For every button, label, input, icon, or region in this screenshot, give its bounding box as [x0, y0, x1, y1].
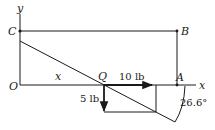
label-b: B — [180, 25, 189, 38]
label-o: O — [9, 80, 18, 93]
label-q: Q — [98, 70, 107, 83]
force-diagram: y x C B O Q A x 10 lb 5 lb 26.6° — [0, 0, 215, 130]
y-axis-label: y — [16, 2, 24, 15]
label-c: C — [8, 25, 17, 38]
label-a: A — [175, 71, 184, 84]
force-label-10lb: 10 lb — [119, 71, 145, 82]
force-label-5lb: 5 lb — [80, 93, 99, 104]
angle-label: 26.6° — [180, 97, 207, 108]
x-axis-label: x — [199, 79, 206, 92]
diagonal-line — [20, 41, 175, 122]
segment-x-label: x — [55, 70, 62, 83]
point-c — [18, 29, 21, 32]
point-b — [176, 30, 179, 33]
point-a — [176, 84, 179, 87]
